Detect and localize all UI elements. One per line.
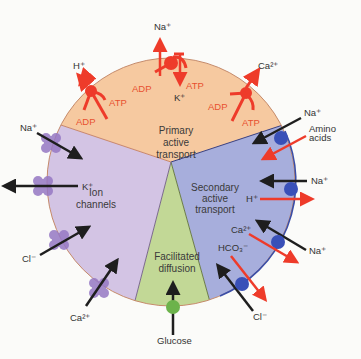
label-secondary-3: transport bbox=[195, 204, 235, 215]
label-facilitated-1: Facilitated bbox=[154, 251, 200, 262]
ca-pump-ion-label: Ca²⁺ bbox=[258, 60, 278, 71]
ca-atp-label: ATP bbox=[242, 117, 260, 128]
k-channel-label: K⁺ bbox=[82, 181, 93, 192]
label-secondary-1: Secondary bbox=[191, 182, 239, 193]
na-out-label: Na⁺ bbox=[154, 21, 171, 32]
carrier-4-icon bbox=[235, 277, 249, 291]
carrier-1-icon bbox=[274, 131, 288, 145]
t3-ca-label: Ca²⁺ bbox=[231, 224, 251, 235]
t1-na-label: Na⁺ bbox=[304, 107, 321, 118]
diagram-canvas: Primary active transport Ion channels Se… bbox=[0, 0, 361, 359]
t4-hco3-label: HCO₃⁻ bbox=[218, 242, 248, 253]
membrane-transport-diagram: Primary active transport Ion channels Se… bbox=[0, 0, 361, 359]
label-primary-3: transport bbox=[156, 149, 196, 160]
t1-amino-label-2: acids bbox=[309, 132, 331, 143]
carrier-2-icon bbox=[284, 182, 298, 196]
ca-channel-label: Ca²⁺ bbox=[70, 312, 90, 323]
label-ion-2: channels bbox=[76, 199, 116, 210]
label-primary-1: Primary bbox=[159, 125, 193, 136]
t4-cl-label: Cl⁻ bbox=[253, 311, 267, 322]
na-channel-label: Na⁺ bbox=[20, 122, 37, 133]
t2-h-label: H⁺ bbox=[246, 193, 258, 204]
na-k-adp-label: ADP bbox=[132, 83, 152, 94]
h-adp-label: ADP bbox=[76, 116, 96, 127]
cl-channel-label: Cl⁻ bbox=[22, 253, 36, 264]
label-primary-2: active bbox=[163, 137, 190, 148]
h-ion-label: H⁺ bbox=[73, 60, 85, 71]
k-in-label: K⁺ bbox=[174, 92, 185, 103]
t3-na-label: Na⁺ bbox=[309, 245, 326, 256]
t2-na-label: Na⁺ bbox=[311, 175, 328, 186]
h-atp-label: ATP bbox=[109, 97, 127, 108]
ca-adp-label: ADP bbox=[208, 101, 228, 112]
label-facilitated-2: diffusion bbox=[158, 263, 195, 274]
label-secondary-2: active bbox=[202, 193, 229, 204]
glucose-label: Glucose bbox=[157, 335, 192, 346]
na-k-atp-label: ATP bbox=[186, 80, 204, 91]
carrier-glucose-icon bbox=[166, 300, 180, 314]
